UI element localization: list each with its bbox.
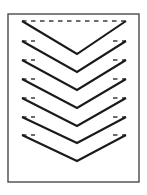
figure-canvas: [0, 0, 147, 195]
border-frame: [8, 14, 139, 182]
chevron-diagram: [0, 0, 147, 195]
